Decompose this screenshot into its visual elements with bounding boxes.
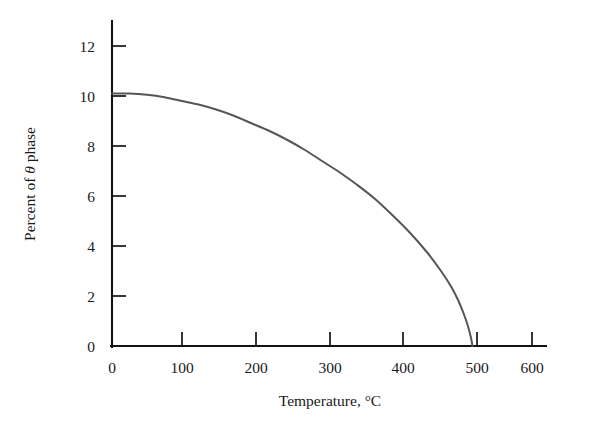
y-tick-label-2: 4 [87, 238, 95, 255]
chart-background [0, 0, 607, 439]
y-axis-title: Percent of θ phase [21, 127, 38, 241]
chart-svg: 0 2 4 6 8 10 12 0 100 200 300 400 500 60… [0, 0, 607, 439]
x-axis-title: Temperature, °C [279, 392, 381, 409]
chart-figure: 0 2 4 6 8 10 12 0 100 200 300 400 500 60… [0, 0, 607, 439]
y-axis-title-prefix: Percent of [21, 174, 38, 241]
y-tick-label-5: 10 [80, 88, 96, 105]
y-axis-title-suffix: phase [21, 127, 38, 166]
x-tick-label-4: 400 [391, 359, 415, 376]
y-tick-label-1: 2 [87, 288, 95, 305]
x-tick-label-6: 600 [520, 359, 544, 376]
y-tick-label-6: 12 [80, 38, 96, 55]
x-tick-labels: 0 100 200 300 400 500 600 [108, 359, 544, 376]
x-tick-label-3: 300 [318, 359, 342, 376]
y-tick-label-0: 0 [87, 338, 95, 355]
x-tick-label-5: 500 [465, 359, 489, 376]
x-tick-label-1: 100 [170, 359, 194, 376]
x-tick-label-0: 0 [108, 359, 116, 376]
y-tick-label-3: 6 [87, 188, 95, 205]
x-tick-label-2: 200 [244, 359, 268, 376]
y-tick-label-4: 8 [87, 138, 95, 155]
